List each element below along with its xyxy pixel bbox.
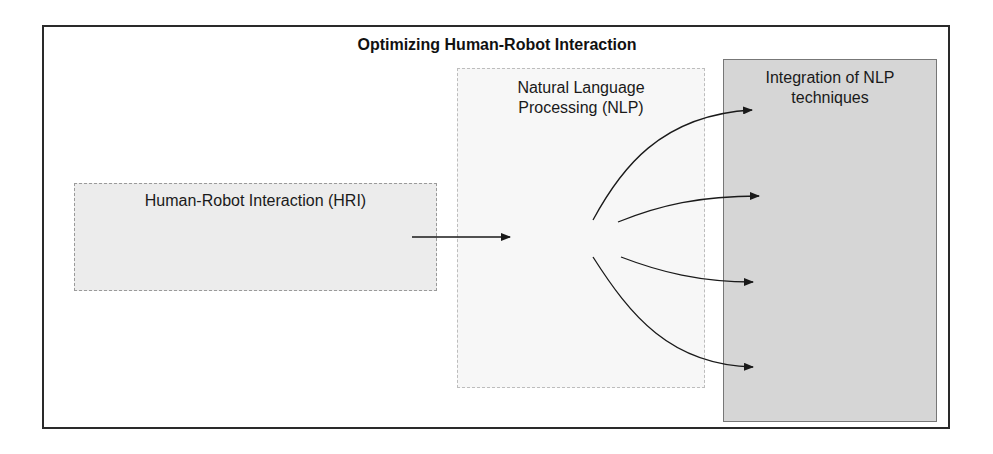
arrow-nlp-to-integration-2 xyxy=(618,196,759,222)
arrow-nlp-to-integration-3 xyxy=(621,257,753,282)
arrows-layer xyxy=(0,0,993,454)
arrow-nlp-to-integration-1 xyxy=(593,110,752,220)
